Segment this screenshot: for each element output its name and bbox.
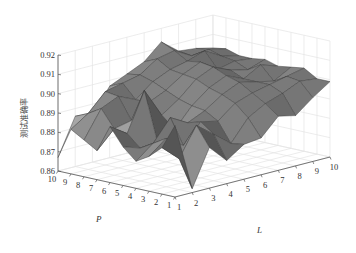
p-tick-mark (161, 194, 163, 197)
z-tick-mark (58, 55, 61, 56)
l-tick-mark (192, 193, 193, 196)
p-tick-label: 5 (115, 188, 119, 198)
p-tick-label: 6 (102, 186, 106, 196)
p-tick-label: 8 (76, 180, 80, 190)
l-tick-label: 8 (297, 171, 301, 181)
p-tick-label: 3 (141, 194, 145, 204)
l-tick-mark (261, 175, 262, 178)
p-tick-mark (135, 188, 137, 191)
p-tick-mark (70, 174, 72, 177)
p-tick-label: 1 (167, 200, 171, 210)
p-axis-label: P (95, 214, 102, 224)
p-tick-label: 2 (154, 197, 158, 207)
p-tick-mark (57, 171, 59, 174)
z-tick-label: 0.92 (40, 50, 55, 60)
z-tick-mark (58, 113, 61, 114)
l-tick-mark (209, 188, 210, 191)
l-tick-label: 9 (315, 166, 319, 176)
z-tick-mark (58, 152, 61, 153)
l-tick-label: 10 (330, 162, 339, 172)
l-tick-label: 1 (177, 202, 181, 212)
l-tick-mark (313, 161, 314, 164)
p-tick-label: 10 (48, 174, 57, 184)
z-tick-mark (58, 132, 61, 133)
l-tick-label: 3 (211, 193, 215, 203)
wall-grid-line (58, 15, 213, 55)
l-tick-mark (330, 157, 331, 160)
surface-chart: 0.860.870.880.890.900.910.92 12345678910… (0, 0, 356, 253)
z-tick-label: 0.87 (40, 147, 55, 157)
l-tick-mark (296, 166, 297, 169)
z-tick-label: 0.90 (40, 89, 55, 99)
z-tick-label: 0.88 (40, 127, 55, 137)
l-tick-mark (227, 184, 228, 187)
z-axis-label: 测试准确率 (19, 98, 29, 138)
l-tick-label: 6 (263, 180, 267, 190)
p-tick-label: 7 (89, 183, 93, 193)
p-tick-mark (148, 191, 150, 194)
z-tick-mark (58, 74, 61, 75)
l-tick-label: 5 (246, 184, 250, 194)
z-tick-label: 0.89 (40, 108, 55, 118)
wall-grid-line (213, 15, 330, 41)
p-tick-mark (122, 185, 124, 188)
l-tick-label: 4 (229, 189, 234, 199)
z-tick-mark (58, 171, 61, 172)
p-tick-mark (109, 183, 111, 186)
p-tick-label: 9 (63, 177, 67, 187)
l-tick-label: 7 (280, 175, 284, 185)
l-tick-mark (278, 170, 279, 173)
z-tick-mark (58, 94, 61, 95)
p-tick-label: 4 (128, 191, 133, 201)
l-tick-label: 2 (194, 198, 198, 208)
l-tick-mark (175, 197, 176, 200)
l-tick-mark (244, 179, 245, 182)
l-axis-label: L (256, 225, 262, 235)
p-tick-mark (83, 177, 85, 180)
z-tick-label: 0.91 (40, 69, 55, 79)
p-tick-mark (96, 180, 98, 183)
